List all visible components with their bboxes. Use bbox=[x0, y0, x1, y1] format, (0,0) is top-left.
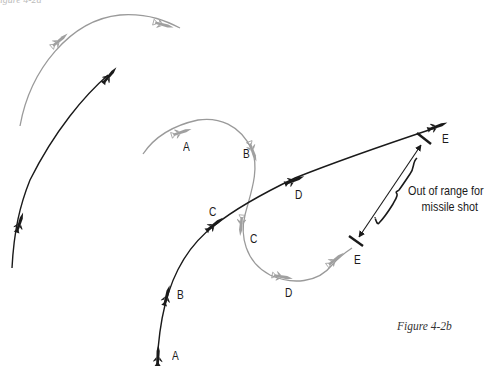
fighter-jet-icon bbox=[12, 211, 27, 234]
bandit-label-C: C bbox=[250, 232, 257, 245]
bandit-label-E: E bbox=[354, 253, 361, 266]
diagram-canvas: igure 4-2a A B C D E A B C D E Out of ra… bbox=[0, 0, 490, 380]
fighter-jet-icon bbox=[99, 64, 119, 86]
fighter-label-A: A bbox=[172, 349, 179, 362]
top-caption-fragment: igure 4-2a bbox=[0, 0, 42, 5]
fighter-label-E: E bbox=[442, 132, 449, 145]
fighter-path-main bbox=[157, 128, 435, 364]
bandit-jet-icon bbox=[49, 30, 71, 50]
range-annotation-line2: missile shot bbox=[408, 199, 484, 215]
bandit-label-A: A bbox=[183, 140, 190, 153]
range-annotation-line1: Out of range for bbox=[408, 183, 484, 199]
bandit-jet-icon-A bbox=[170, 125, 193, 140]
range-tick-top bbox=[417, 133, 431, 144]
left-panel bbox=[12, 15, 180, 268]
fighter-label-B: B bbox=[177, 288, 184, 301]
fighter-path-left bbox=[12, 75, 108, 268]
range-annotation: Out of range for missile shot bbox=[408, 183, 484, 215]
bandit-jet-icon bbox=[152, 18, 175, 32]
bandit-path-left bbox=[20, 15, 180, 126]
fighter-label-C: C bbox=[209, 205, 216, 218]
bandit-label-B: B bbox=[243, 147, 250, 160]
range-tick-bottom bbox=[349, 236, 363, 246]
fighter-jet-icon-A bbox=[153, 345, 163, 366]
figure-caption: Figure 4-2b bbox=[397, 320, 452, 332]
bandit-label-D: D bbox=[285, 286, 292, 299]
bandit-jet-icon-E bbox=[325, 249, 347, 269]
fighter-jet-icon-B bbox=[160, 284, 174, 307]
fighter-label-D: D bbox=[295, 188, 302, 201]
